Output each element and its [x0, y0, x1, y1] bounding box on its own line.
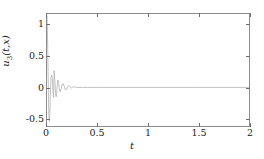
y-tick-mark: [246, 56, 250, 57]
y-tick-mark: [46, 56, 50, 57]
series-line-u3: [47, 16, 249, 122]
x-tick-label: 1: [128, 128, 168, 138]
x-tick-mark: [250, 13, 251, 17]
x-tick-label: 0: [26, 128, 66, 138]
y-tick-mark: [246, 119, 250, 120]
x-tick-mark: [199, 13, 200, 17]
x-tick-mark: [46, 13, 47, 17]
y-tick-mark: [46, 24, 50, 25]
y-tick-mark: [246, 24, 250, 25]
x-axis-label: t: [0, 140, 264, 151]
y-tick-mark: [46, 119, 50, 120]
y-tick-label: 1: [0, 19, 44, 29]
x-tick-mark: [97, 13, 98, 17]
y-tick-label: 0: [0, 83, 44, 93]
y-tick-label: 0.5: [0, 51, 44, 61]
x-tick-label: 1.5: [179, 128, 219, 138]
y-tick-mark: [46, 88, 50, 89]
x-tick-label: 2: [230, 128, 264, 138]
data-curve-svg: [47, 14, 249, 126]
y-tick-mark: [246, 88, 250, 89]
y-tick-label: -0.5: [0, 114, 44, 124]
x-tick-label: 0.5: [77, 128, 117, 138]
chart-figure: u3(t,x) 1 0.5 0 -0.5 0 0.5 1 1.5 2 t: [0, 0, 264, 159]
plot-area: [46, 13, 250, 127]
x-tick-mark: [148, 13, 149, 17]
